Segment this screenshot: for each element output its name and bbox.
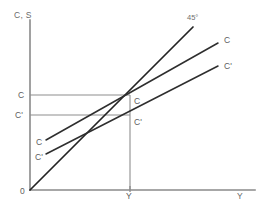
y-tick-label-c: C <box>18 90 24 100</box>
x-tick-label-y: Y <box>126 191 132 201</box>
line-45-degree <box>30 27 193 190</box>
x-axis-title: Y <box>237 191 243 201</box>
curve-c-prime-end-label: C' <box>224 61 232 71</box>
chart-canvas: C, S Y 45° C C' C C' C C' C C' Y 0 <box>0 0 263 215</box>
point-c-prime-label: C' <box>134 117 142 127</box>
origin-label: 0 <box>20 186 25 196</box>
line-consumption-c <box>46 43 218 140</box>
y-tick-label-c-prime: C' <box>15 110 23 120</box>
curve-c-start-label: C <box>36 137 42 147</box>
line-consumption-c-prime <box>46 66 218 154</box>
point-c-label: C <box>134 96 140 106</box>
curve-c-prime-start-label: C' <box>35 152 43 162</box>
keynesian-cross-chart: C, S Y 45° C C' C C' C C' C C' Y 0 <box>0 0 263 215</box>
curve-c-end-label: C <box>224 35 230 45</box>
angle-45-label: 45° <box>187 13 198 22</box>
y-axis-title: C, S <box>14 10 32 20</box>
